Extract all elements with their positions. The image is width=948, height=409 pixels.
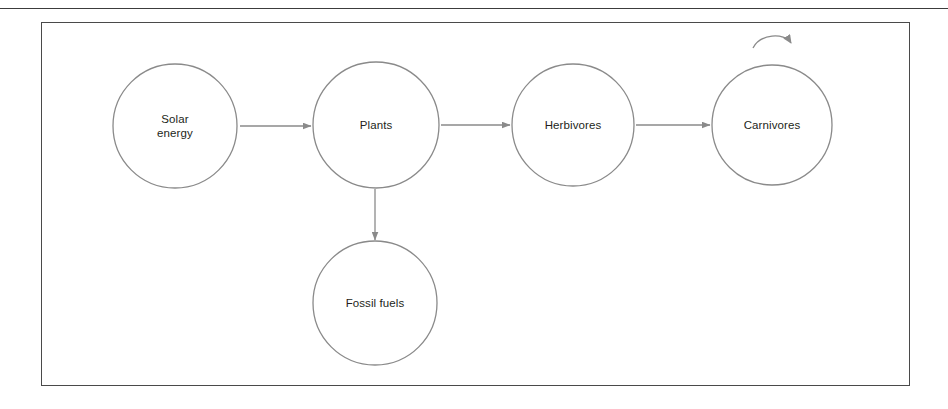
- node-circle-herbivores[interactable]: [512, 64, 634, 186]
- diagram-canvas: [0, 0, 948, 409]
- page-root: Solar energy Plants Herbivores Carnivore…: [0, 0, 948, 409]
- node-circle-fossil-fuels[interactable]: [313, 241, 437, 365]
- node-circle-solar-energy[interactable]: [113, 64, 237, 188]
- node-circle-carnivores[interactable]: [712, 65, 832, 185]
- edge-carnivores-self-loop: [753, 36, 791, 48]
- node-circle-plants[interactable]: [313, 62, 439, 188]
